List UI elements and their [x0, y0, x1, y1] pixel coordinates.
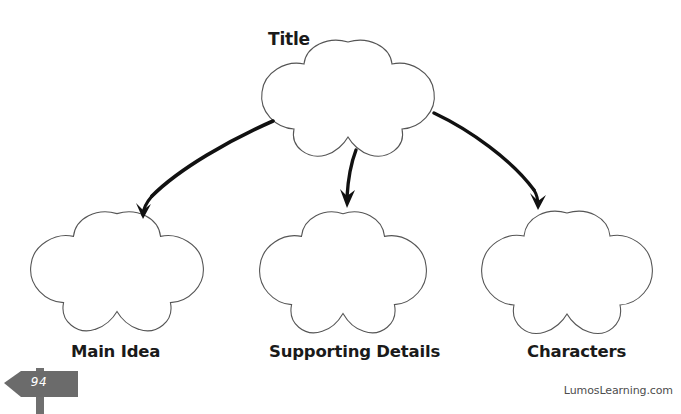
arrow-title-to-characters — [434, 113, 546, 210]
characters-flower-outline — [482, 211, 653, 333]
node-characters-label: Characters — [527, 342, 626, 361]
footer-brand: LumosLearning.com — [564, 384, 673, 397]
title-flower-outline — [262, 40, 435, 156]
node-characters[interactable] — [477, 208, 657, 336]
page-number: 94 — [0, 375, 78, 389]
node-main-idea[interactable] — [26, 208, 208, 334]
node-supporting-details-label: Supporting Details — [269, 342, 440, 361]
main-idea-flower-outline — [31, 212, 204, 331]
node-title-label: Title — [268, 29, 310, 49]
arrow-title-to-supporting-details — [340, 150, 356, 208]
arrow-title-to-main-idea — [136, 121, 273, 219]
supporting-details-flower-outline — [260, 212, 427, 333]
node-supporting-details[interactable] — [255, 208, 431, 336]
worksheet-page: Title Main Idea Supporting Details Chara… — [0, 0, 681, 414]
header-remnant — [0, 0, 681, 4]
node-main-idea-label: Main Idea — [71, 342, 160, 361]
node-title[interactable] — [256, 38, 440, 158]
